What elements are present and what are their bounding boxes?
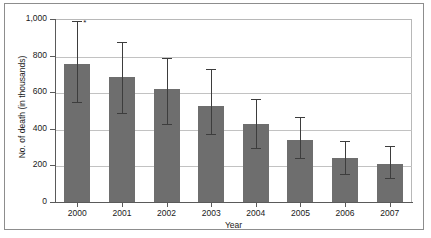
- x-tick-label: 2003: [191, 208, 231, 218]
- x-tick-label: 2007: [370, 208, 410, 218]
- y-tick-mark: [50, 202, 55, 203]
- x-tick-mark: [77, 202, 78, 207]
- error-bar-cap-upper: [385, 146, 395, 147]
- error-bar-cap-upper: [117, 42, 127, 43]
- error-bar-cap-lower: [72, 102, 82, 103]
- gridline: [55, 57, 412, 58]
- error-bar-cap-lower: [385, 178, 395, 179]
- y-tick-label: 1,000: [0, 14, 47, 23]
- error-bar-cap-lower: [206, 134, 216, 135]
- x-tick-mark: [256, 202, 257, 207]
- error-bar-cap-lower: [295, 158, 305, 159]
- x-tick-label: 2005: [280, 208, 320, 218]
- x-tick-label: 2000: [57, 208, 97, 218]
- y-tick-mark: [50, 129, 55, 130]
- figure-canvas: * 02004006008001,000 2000200120022003200…: [0, 0, 431, 238]
- error-bar-cap-upper: [251, 99, 261, 100]
- error-bar-line: [211, 69, 212, 134]
- error-bar-cap-lower: [340, 174, 350, 175]
- y-tick-mark: [50, 165, 55, 166]
- error-bar-line: [256, 99, 257, 148]
- y-tick-mark: [50, 56, 55, 57]
- error-bar-line: [77, 21, 78, 102]
- x-tick-mark: [390, 202, 391, 207]
- x-axis-title: Year: [55, 220, 412, 230]
- x-tick-label: 2004: [236, 208, 276, 218]
- x-tick-label: 2006: [325, 208, 365, 218]
- plot-area: *: [55, 19, 412, 202]
- error-bar-cap-upper: [72, 21, 82, 22]
- x-tick-mark: [345, 202, 346, 207]
- error-bar-cap-upper: [162, 58, 172, 59]
- error-bar-cap-lower: [117, 113, 127, 114]
- x-tick-mark: [211, 202, 212, 207]
- y-tick-label: 0: [0, 197, 47, 206]
- x-tick-mark: [167, 202, 168, 207]
- x-tick-label: 2002: [147, 208, 187, 218]
- error-bar-line: [122, 42, 123, 113]
- x-tick-label: 2001: [102, 208, 142, 218]
- x-axis-line: [55, 202, 413, 203]
- y-tick-mark: [50, 92, 55, 93]
- error-bar-cap-upper: [340, 141, 350, 142]
- x-tick-mark: [300, 202, 301, 207]
- error-bar-cap-upper: [206, 69, 216, 70]
- x-tick-mark: [122, 202, 123, 207]
- error-bar-cap-upper: [295, 117, 305, 118]
- y-tick-mark: [50, 19, 55, 20]
- error-bar-line: [167, 58, 168, 125]
- y-axis-line: [55, 19, 56, 203]
- error-bar-line: [390, 146, 391, 178]
- y-axis-title: No. of death (in thousands): [17, 37, 27, 177]
- error-bar-cap-lower: [162, 124, 172, 125]
- significance-asterisk: *: [83, 20, 86, 26]
- error-bar-line: [300, 117, 301, 158]
- error-bar-cap-lower: [251, 148, 261, 149]
- error-bar-line: [345, 141, 346, 174]
